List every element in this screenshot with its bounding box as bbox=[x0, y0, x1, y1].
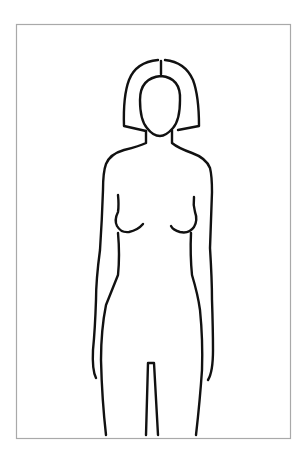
frame-border bbox=[17, 25, 291, 439]
body-outline-diagram bbox=[0, 0, 307, 457]
